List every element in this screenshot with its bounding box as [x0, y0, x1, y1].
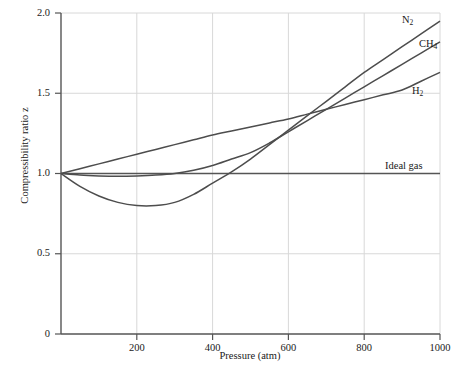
- xtick-label-200: 200: [115, 342, 159, 353]
- curve-label-h2: H2: [412, 85, 423, 98]
- data-curves: [61, 21, 440, 206]
- y-axis-title: Compressibility ratio z: [19, 76, 30, 236]
- y-tick-marks: [55, 13, 61, 334]
- x-tick-marks: [137, 334, 440, 340]
- curve-ch4: [61, 42, 440, 176]
- compressibility-plot-svg: [0, 0, 471, 373]
- ytick-label-0: 0: [16, 328, 50, 339]
- curve-label-ideal-gas: Ideal gas: [385, 160, 423, 171]
- compressibility-chart-figure: 2.0 1.5 1.0 0.5 0 200 400 600 800 1000 C…: [0, 0, 471, 373]
- ytick-label-2.0: 2.0: [16, 7, 50, 18]
- curve-label-ch4: CH4: [419, 38, 437, 51]
- x-axis-title: Pressure (atm): [170, 350, 330, 361]
- curve-n2: [61, 21, 440, 206]
- xtick-label-1000: 1000: [418, 342, 462, 353]
- ytick-label-0.5: 0.5: [16, 247, 50, 258]
- curve-label-n2: N2: [402, 14, 413, 27]
- xtick-label-800: 800: [342, 342, 386, 353]
